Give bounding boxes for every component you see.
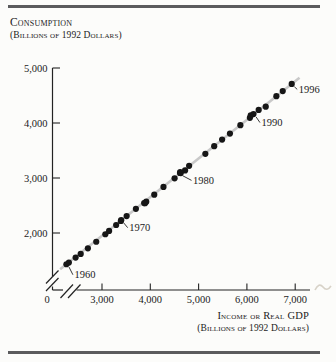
x-tick-label: 4,000 — [138, 294, 162, 305]
year-pointer-line-1960 — [69, 267, 73, 275]
scatter-plot: 2,0003,0004,0005,0003,0004,0005,0006,000… — [0, 0, 336, 362]
x-axis-title: Income or Real GDP (Billions of 1992 Dol… — [197, 310, 309, 334]
data-point-1967 — [106, 228, 112, 234]
year-label-1970: 1970 — [129, 222, 150, 233]
data-point-1995 — [280, 88, 286, 94]
data-point-1996 — [289, 81, 295, 87]
year-pointer-line-1996 — [294, 87, 297, 90]
y-tick-label: 3,000 — [24, 173, 48, 184]
data-point-1968 — [113, 222, 119, 228]
data-point-1961 — [66, 259, 72, 265]
scan-artifact — [315, 285, 331, 290]
data-point-1965 — [93, 239, 99, 245]
data-point-1985 — [211, 143, 217, 149]
x-axis-title-line1: Income or Real GDP — [197, 310, 309, 322]
data-point-1993 — [263, 104, 269, 110]
data-point-1992 — [256, 107, 262, 113]
data-point-1984 — [202, 151, 208, 157]
data-point-1964 — [85, 245, 91, 251]
x-axis-break-icon — [61, 285, 74, 299]
data-point-1987 — [227, 130, 233, 136]
data-point-1978 — [171, 175, 177, 181]
data-point-1977 — [160, 184, 166, 190]
figure-panel: Consumption (Billions of 1992 Dollars) 2… — [0, 0, 336, 362]
data-point-1972 — [133, 206, 139, 212]
data-point-1963 — [78, 251, 84, 257]
year-label-1980: 1980 — [193, 175, 214, 186]
bottom-rule — [8, 351, 320, 354]
data-point-1983 — [186, 163, 192, 169]
data-point-1962 — [73, 254, 79, 260]
y-tick-label: 4,000 — [24, 118, 48, 129]
data-point-1970 — [118, 217, 124, 223]
x-axis-break-icon — [68, 285, 81, 299]
year-label-1996: 1996 — [299, 84, 320, 95]
x-tick-label: 5,000 — [187, 294, 211, 305]
year-pointer-line-1970 — [124, 223, 128, 228]
data-point-1988 — [237, 122, 243, 128]
x-tick-label: 6,000 — [235, 294, 259, 305]
y-tick-label: 2,000 — [24, 228, 48, 239]
data-point-1971 — [124, 213, 130, 219]
y-tick-label: 5,000 — [24, 63, 48, 74]
data-point-1975 — [141, 200, 147, 206]
year-label-1990: 1990 — [261, 117, 282, 128]
data-point-1991 — [248, 112, 254, 118]
data-point-1994 — [273, 93, 279, 99]
year-pointer-line-1980 — [183, 176, 192, 181]
year-label-1960: 1960 — [74, 269, 95, 280]
x-tick-label: 7,000 — [283, 294, 307, 305]
origin-label: 0 — [44, 294, 49, 305]
year-pointer-line-1990 — [256, 117, 260, 123]
x-tick-label: 3,000 — [90, 294, 114, 305]
data-point-1986 — [219, 136, 225, 142]
data-point-1982 — [177, 169, 183, 175]
data-point-1976 — [151, 192, 157, 198]
x-axis-title-line2: (Billions of 1992 Dollars) — [197, 322, 309, 334]
